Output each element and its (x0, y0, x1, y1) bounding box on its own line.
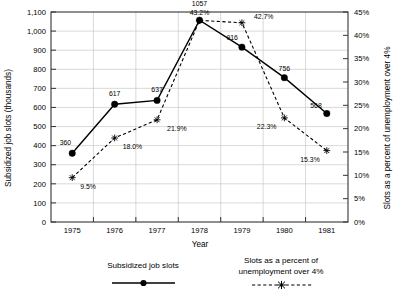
legend: Subsidized job slots Slots as a percent … (107, 256, 323, 289)
y-axis-right-title: Slots as a percent of unemployment over … (383, 47, 392, 210)
y-axis-right-tick-label: 25% (354, 101, 369, 110)
data-point-star-marker (154, 116, 161, 123)
legend-swatch-star-icon (277, 281, 285, 289)
y-axis-left-tick-label: 1,100 (27, 8, 46, 17)
legend-label-series-1: Subsidized job slots (107, 261, 179, 270)
data-point-star-marker (323, 147, 330, 154)
y-axis-right-tick-label: 5% (354, 194, 365, 203)
data-label-job-slots: 360 (60, 139, 72, 146)
x-axis-tick-label: 1979 (233, 226, 250, 235)
data-label-job-slots: 617 (109, 90, 121, 97)
data-label-job-slots: 1057 (192, 0, 207, 7)
x-axis-tick-label: 1976 (106, 226, 123, 235)
data-point-star-marker (196, 17, 203, 24)
data-labels: 36061763710579167565689.5%18.0%21.9%43.2… (60, 0, 322, 189)
data-point-marker (154, 97, 160, 103)
series-subsidized-job-slots (69, 17, 330, 156)
y-axis-left-tick-label: 0 (42, 218, 46, 227)
y-axis-left-tick-label: 200 (33, 180, 46, 189)
y-axis-left-tick-label: 800 (33, 65, 46, 74)
x-axis-tick-label: 1978 (191, 226, 208, 235)
data-label-percent: 43.2% (190, 9, 210, 16)
data-label-percent: 18.0% (123, 143, 143, 150)
data-label-percent: 22.3% (257, 123, 277, 130)
data-label-percent: 21.9% (167, 125, 187, 132)
data-point-marker (324, 110, 330, 116)
data-label-job-slots: 637 (151, 86, 163, 93)
y-axis-right-tick-label: 40% (354, 31, 369, 40)
y-axis-left-tick-label: 900 (33, 46, 46, 55)
y-axis-right-tick-label: 10% (354, 171, 369, 180)
data-point-star-marker (281, 115, 288, 122)
dual-axis-line-chart: 01002003004005006007008009001,0001,100 0… (0, 0, 398, 295)
data-label-percent: 15.3% (300, 156, 320, 163)
data-point-marker (111, 101, 117, 107)
y-axis-right-tick-label: 35% (354, 54, 369, 63)
plot-frame (51, 12, 348, 222)
data-point-marker (239, 44, 245, 50)
y-axis-left-tick-label: 500 (33, 122, 46, 131)
x-axis-ticks: 1975197619771978197919801981 (64, 217, 335, 235)
data-point-marker (69, 150, 75, 156)
y-axis-left-title: Subsidized job slots (thousands) (4, 69, 13, 187)
legend-swatch-dot-icon (140, 280, 146, 286)
x-axis-tick-label: 1981 (318, 226, 335, 235)
y-axis-right-tick-label: 15% (354, 148, 369, 157)
y-axis-left-tick-label: 300 (33, 160, 46, 169)
y-axis-right-tick-label: 30% (354, 78, 369, 87)
y-axis-right-tick-label: 20% (354, 124, 369, 133)
x-axis-title: Year (192, 240, 209, 249)
y-axis-left-ticks: 01002003004005006007008009001,0001,100 (27, 8, 56, 227)
data-point-marker (281, 74, 287, 80)
y-axis-left-tick-label: 1,000 (27, 27, 46, 36)
y-axis-right-ticks: 0%5%10%15%20%25%30%35%40%45% (343, 8, 369, 227)
data-label-job-slots: 916 (226, 34, 238, 41)
y-axis-left-tick-label: 600 (33, 103, 46, 112)
data-label-job-slots: 568 (310, 102, 322, 109)
legend-label-series-2-line-2: unemployment over 4% (238, 267, 323, 276)
x-axis-tick-label: 1975 (64, 226, 81, 235)
data-point-star-marker (69, 174, 76, 181)
data-point-star-marker (239, 19, 246, 26)
data-label-percent: 9.5% (80, 183, 96, 190)
y-axis-left-tick-label: 400 (33, 141, 46, 150)
y-axis-right-tick-label: 45% (354, 8, 369, 17)
data-point-star-marker (111, 135, 118, 142)
data-label-percent: 42.7% (254, 13, 274, 20)
y-axis-right-tick-label: 0% (354, 218, 365, 227)
grid-lines (51, 12, 348, 222)
y-axis-left-tick-label: 700 (33, 84, 46, 93)
chart-container: 01002003004005006007008009001,0001,100 0… (0, 0, 398, 295)
data-label-job-slots: 756 (279, 65, 291, 72)
x-axis-tick-label: 1977 (149, 226, 166, 235)
y-axis-left-tick-label: 100 (33, 199, 46, 208)
legend-label-series-2-line-1: Slots as a percent of (244, 256, 319, 265)
x-axis-tick-label: 1980 (276, 226, 293, 235)
series-percent-unemployment (69, 17, 330, 181)
